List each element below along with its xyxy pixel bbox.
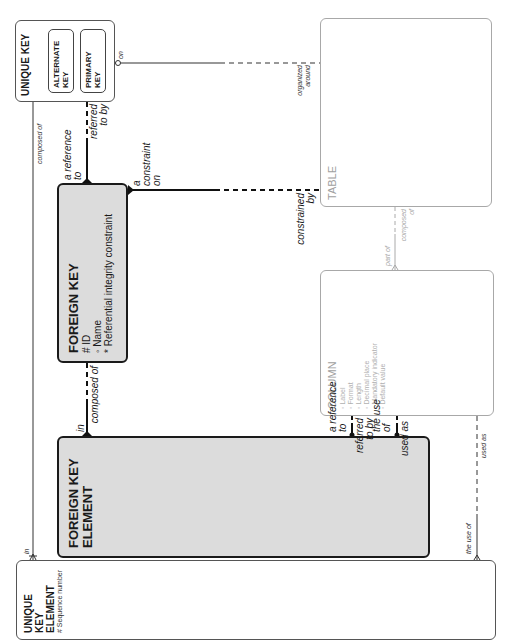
label-uk-referred-to-by: referred to by xyxy=(89,104,109,144)
entity-unique-key[interactable]: UNIQUE KEY ALTERNATE KEY PRIMARY KEY xyxy=(15,20,115,102)
label-fk-composed-of: composed of xyxy=(90,366,100,424)
label-fk-a-constraint-on: a constraint on xyxy=(132,136,162,186)
attribute-decimal-place: ◦ Decimal place xyxy=(363,277,371,409)
label-table-constrained-by: constrained by xyxy=(296,193,316,249)
attribute-sequence-number: # Sequence number xyxy=(56,567,64,633)
label-text: organized around xyxy=(296,65,311,96)
label-table-composed-of: composed of xyxy=(400,209,416,249)
attribute-mandatory-indicator: ◦ Mandatory indicator xyxy=(371,277,379,409)
label-text: composed of xyxy=(89,366,100,423)
entity-table[interactable]: TABLE xyxy=(320,18,492,207)
label-fk-a-reference-to: a reference to xyxy=(63,122,83,180)
subtype-name: ALTERNATE KEY xyxy=(52,41,70,88)
entity-unique-key-element[interactable]: UNIQUE KEY ELEMENT # Sequence number xyxy=(16,560,496,640)
subtype-primary-key[interactable]: PRIMARY KEY xyxy=(80,29,106,93)
label-text: referred to by xyxy=(88,104,109,139)
label-fke-in: in xyxy=(76,424,86,432)
subtype-name: PRIMARY KEY xyxy=(84,52,102,88)
label-column-used-as-uke: used as xyxy=(480,433,488,458)
label-text: a reference to xyxy=(327,381,348,432)
label-uk-on: on xyxy=(117,51,125,59)
entity-name: FOREIGN KEY ELEMENT xyxy=(67,458,95,548)
label-text: constrained by xyxy=(295,193,316,245)
entity-name: FOREIGN KEY xyxy=(67,193,81,353)
label-column-used-as: used as xyxy=(400,421,410,456)
label-uke-the-use-of: the use of xyxy=(465,523,473,554)
entity-foreign-key[interactable]: FOREIGN KEY # ID ◦ Name * Referential in… xyxy=(57,183,128,363)
subtype-alternate-key[interactable]: ALTERNATE KEY xyxy=(48,29,74,93)
label-table-organized-around: organized around xyxy=(296,65,312,97)
entity-name: UNIQUE KEY ELEMENT xyxy=(23,573,56,633)
label-text: a reference to xyxy=(62,129,83,180)
attribute-format: ◦ Format xyxy=(347,277,355,409)
attribute-length: ◦ Length xyxy=(355,277,363,409)
label-text: composed of xyxy=(400,209,415,241)
label-uke-in: in xyxy=(23,549,31,554)
attribute-referential-integrity: * Referential integrity constraint xyxy=(103,193,114,353)
er-diagram: UNIQUE KEY ALTERNATE KEY PRIMARY KEY TAB… xyxy=(0,0,506,644)
entity-name: UNIQUE KEY xyxy=(20,26,31,96)
label-text: part of xyxy=(384,246,391,266)
entity-name: TABLE xyxy=(325,25,339,200)
label-uk-composed-of: composed of xyxy=(36,124,44,164)
label-fke-the-use-of: the use of xyxy=(372,392,392,432)
label-column-part-of: part of xyxy=(384,246,392,266)
attribute-name: ◦ Name xyxy=(92,193,103,353)
label-text: the use of xyxy=(371,399,392,432)
label-text: a constraint on xyxy=(131,143,162,186)
attribute-id: # ID xyxy=(81,193,92,353)
label-fke-a-reference-to: a reference to xyxy=(328,374,348,432)
attribute-default-value: ◦ Default value xyxy=(379,277,387,409)
